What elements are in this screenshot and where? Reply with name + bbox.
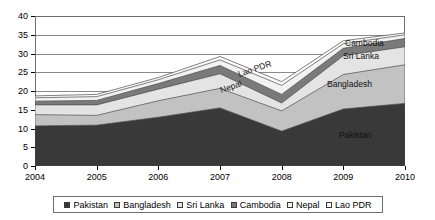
x-tick-label: 2006 [148,172,168,182]
legend-item[interactable]: Nepal [287,200,320,210]
x-tick-label: 2007 [210,172,230,182]
y-tick-label: 35 [18,30,28,39]
y-tick-label: 15 [18,105,28,114]
chart-root: 0510152025303540 20042005200620072008200… [0,0,435,220]
x-tick-label: 2005 [87,172,107,182]
y-axis: 0510152025303540 [0,0,35,168]
series-label-cambodia: Cambodia [345,39,384,48]
x-tick-mark [35,166,36,170]
chart-legend: PakistanBangladeshSri LankaCambodiaNepal… [53,196,383,213]
legend-label: Pakistan [73,200,108,210]
legend-item[interactable]: Sri Lanka [177,200,224,210]
legend-item[interactable]: Pakistan [64,200,108,210]
x-tick-label: 2008 [272,172,292,182]
x-tick-mark [158,166,159,170]
legend-label: Nepal [296,200,320,210]
x-tick-label: 2004 [25,172,45,182]
legend-swatch-icon [64,202,70,208]
series-label-bangladesh: Bangladesh [327,80,372,89]
x-tick-mark [220,166,221,170]
legend-item[interactable]: Bangladesh [114,200,171,210]
legend-swatch-icon [287,202,293,208]
x-tick-mark [282,166,283,170]
y-tick-label: 5 [23,143,28,152]
legend-swatch-icon [114,202,120,208]
x-axis: 2004200520062007200820092010 [0,166,435,188]
x-tick-mark [405,166,406,170]
legend-item[interactable]: Cambodia [231,200,281,210]
y-tick-label: 30 [18,49,28,58]
y-tick-label: 20 [18,87,28,96]
legend-item[interactable]: Lao PDR [326,200,372,210]
legend-swatch-icon [326,202,332,208]
legend-swatch-icon [231,202,237,208]
legend-label: Bangladesh [123,200,171,210]
series-label-pakistan: Pakistan [339,131,372,140]
series-label-sri-lanka: Sri Lanka [343,52,379,61]
x-tick-mark [343,166,344,170]
legend-label: Lao PDR [335,200,372,210]
y-tick-label: 25 [18,68,28,77]
x-tick-label: 2010 [395,172,415,182]
legend-swatch-icon [177,202,183,208]
x-tick-mark [97,166,98,170]
y-tick-label: 10 [18,124,28,133]
legend-label: Sri Lanka [186,200,224,210]
y-tick-label: 40 [18,12,28,21]
x-tick-label: 2009 [333,172,353,182]
legend-label: Cambodia [240,200,281,210]
